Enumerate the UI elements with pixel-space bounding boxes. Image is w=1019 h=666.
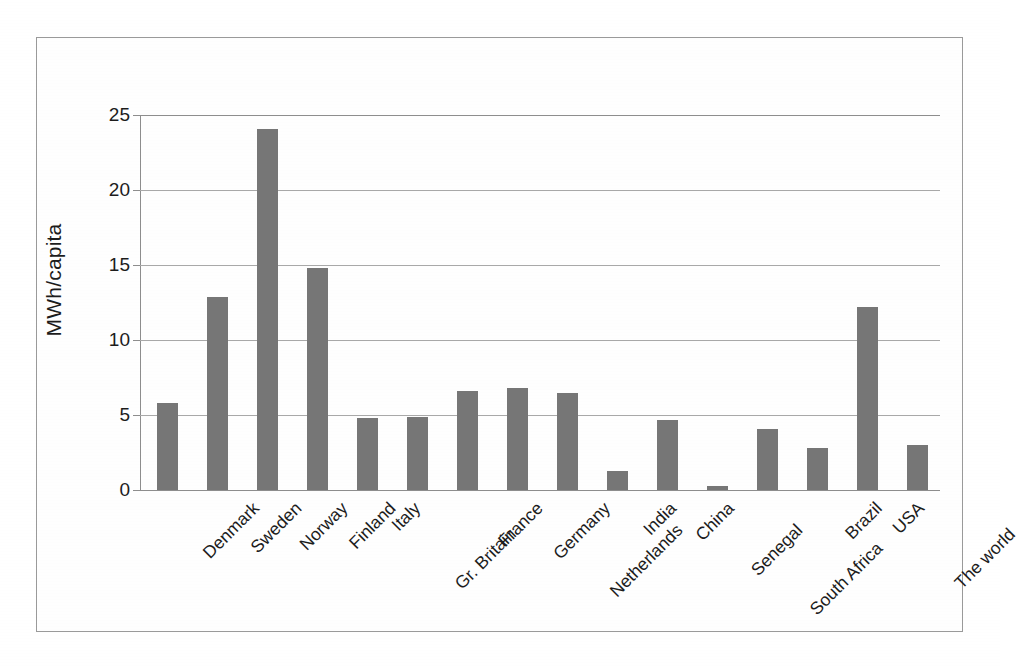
bar (857, 307, 878, 490)
x-axis-label: Norway (295, 498, 352, 555)
plot-area (140, 115, 940, 490)
y-axis-tick-mark (133, 490, 140, 491)
bar (307, 268, 328, 490)
bar (157, 403, 178, 490)
y-axis-tick-label: 20 (96, 179, 130, 201)
y-axis-tick-mark (133, 415, 140, 416)
bar (207, 297, 228, 491)
y-axis-tick-mark (133, 190, 140, 191)
y-axis-tick-label: 5 (96, 404, 130, 426)
bar (407, 417, 428, 491)
x-axis-label: Denmark (198, 498, 263, 563)
y-axis-tick-labels: 0510152025 (96, 0, 130, 666)
y-axis-tick-label: 25 (96, 104, 130, 126)
bar (557, 393, 578, 491)
y-axis-tick-label: 10 (96, 329, 130, 351)
x-axis-label: South Africa (805, 538, 887, 620)
gridline (140, 115, 940, 116)
x-axis-label: Brazil (840, 498, 886, 544)
x-axis-label: Germany (549, 498, 615, 564)
bar (357, 418, 378, 490)
bar (707, 486, 728, 491)
y-axis-tick-mark (133, 265, 140, 266)
x-axis-label: USA (888, 498, 928, 538)
y-axis-tick-label: 15 (96, 254, 130, 276)
gridline (140, 490, 940, 491)
y-axis-tick-mark (133, 340, 140, 341)
bar (907, 445, 928, 490)
x-axis-label: China (691, 498, 738, 545)
bar (657, 420, 678, 490)
bar (507, 388, 528, 490)
y-axis-title: MWh/capita (42, 210, 66, 350)
x-axis-category-labels: DenmarkSwedenNorwayFinlandItalyGr. Brita… (140, 492, 960, 642)
x-axis-label: Italy (387, 498, 425, 536)
bar (607, 471, 628, 491)
x-axis-label: France (493, 498, 546, 551)
bar (807, 448, 828, 490)
y-axis-tick-label: 0 (96, 479, 130, 501)
y-axis-tick-mark (133, 115, 140, 116)
bar (257, 129, 278, 491)
x-axis-label: Senegal (746, 520, 806, 580)
bar (757, 429, 778, 491)
bar (457, 391, 478, 490)
